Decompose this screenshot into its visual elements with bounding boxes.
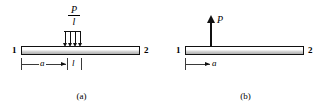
- distributed-load-bar: [64, 31, 81, 32]
- beam-node-label-left: 1: [176, 46, 181, 55]
- dimension-tick-l-end: [81, 58, 82, 70]
- dimension-label-a: a: [39, 59, 46, 68]
- panel-caption-a: (a): [0, 92, 163, 101]
- dimension-arrow-a-right: [205, 62, 210, 66]
- beam: [21, 46, 140, 55]
- beam-loading-figure: P l 1 2 a l (a): [0, 0, 327, 110]
- panel-b: P 1 2 a (b): [164, 0, 327, 110]
- panel-a: P l 1 2 a l (a): [0, 0, 163, 110]
- beam-node-label-right: 2: [308, 46, 313, 55]
- point-force-arrow-head: [207, 15, 215, 23]
- beam-node-label-right: 2: [144, 46, 149, 55]
- panel-caption-b: (b): [164, 92, 327, 101]
- load-label-denominator: l: [62, 16, 86, 27]
- point-force-label: P: [217, 15, 223, 25]
- beam: [185, 46, 304, 55]
- dimension-tick-l-start: [67, 58, 68, 70]
- dimension-label-l: l: [71, 59, 76, 68]
- distributed-load-intensity-label: P l: [62, 4, 86, 27]
- dimension-label-a: a: [211, 59, 218, 68]
- beam-node-label-left: 1: [12, 46, 17, 55]
- load-label-numerator: P: [62, 4, 86, 15]
- dimension-arrow-a-right: [61, 62, 66, 66]
